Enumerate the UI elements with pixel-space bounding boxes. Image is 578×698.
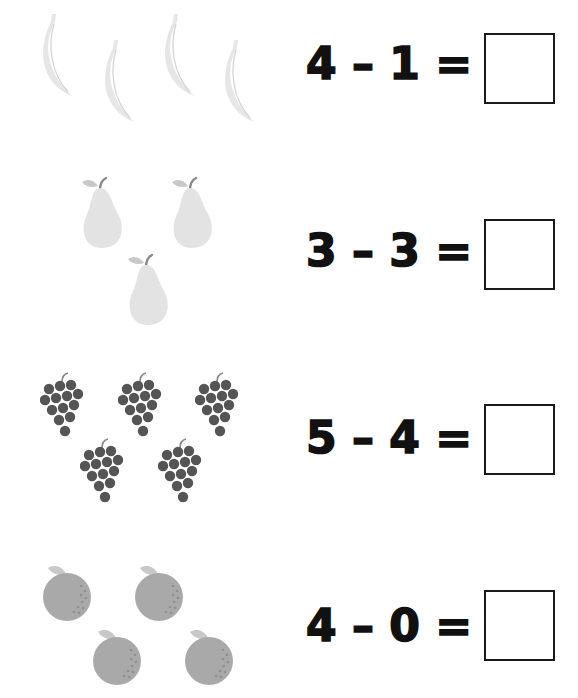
pear-icon xyxy=(168,176,218,252)
equation-text: 5 – 4 = xyxy=(306,416,472,460)
orange-icon xyxy=(92,628,144,686)
orange-icon xyxy=(42,564,94,622)
grapes-icon xyxy=(118,372,162,438)
orange-icon xyxy=(184,628,236,686)
orange-icon xyxy=(134,564,186,622)
answer-box[interactable] xyxy=(484,590,555,661)
grapes-icon xyxy=(40,372,84,438)
pear-icon xyxy=(124,253,174,329)
pear-icon xyxy=(78,176,128,252)
equation-text: 4 – 0 = xyxy=(306,604,472,648)
answer-box[interactable] xyxy=(484,219,555,290)
grapes-icon xyxy=(80,438,124,504)
grapes-icon xyxy=(195,372,239,438)
equation-text: 3 – 3 = xyxy=(306,229,472,273)
grapes-icon xyxy=(158,438,202,504)
answer-box[interactable] xyxy=(484,404,555,475)
problem-row-4: 4 – 0 = xyxy=(0,0,578,174)
